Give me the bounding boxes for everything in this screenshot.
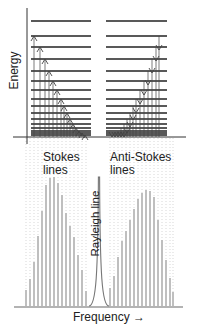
energy-axis-label: Energy (8, 51, 21, 91)
rayleigh-line-label: Rayleigh line (89, 188, 102, 260)
frequency-axis-label: Frequency → (73, 311, 145, 324)
stokes-label-line2: lines (43, 164, 80, 177)
stokes-lines-label: Stokes lines (43, 151, 80, 177)
anti-stokes-label-line2: lines (110, 164, 171, 177)
anti-stokes-lines-label: Anti-Stokes lines (110, 151, 171, 177)
anti-stokes-transition-arrows (109, 36, 162, 137)
energy-levels (31, 21, 167, 135)
